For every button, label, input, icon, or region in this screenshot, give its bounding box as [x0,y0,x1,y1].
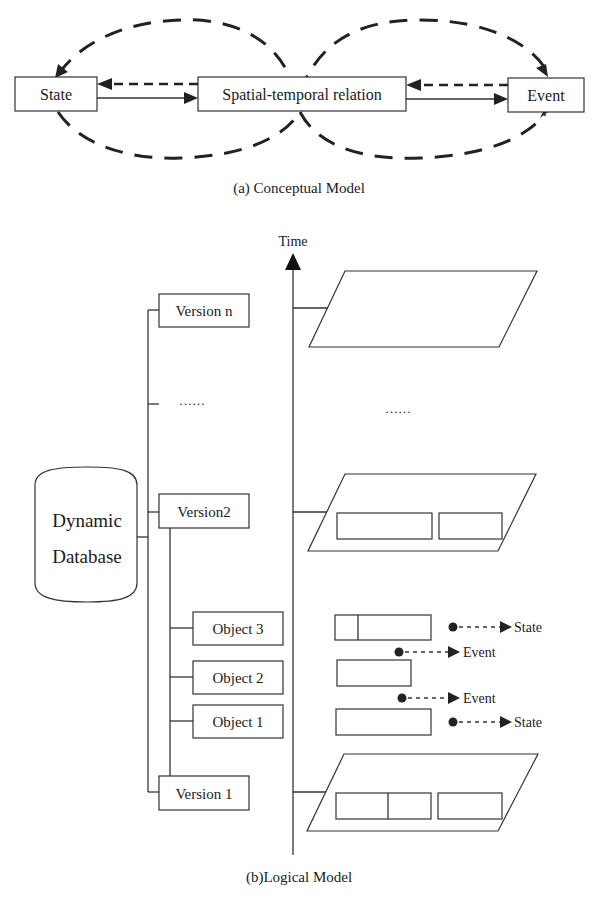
event-node-label: Event [527,87,565,104]
arrow-head-icon [500,621,512,633]
version-2-label: Version2 [177,504,230,520]
object-1-label: Object 1 [212,714,263,730]
dynamic-database [35,467,137,602]
layer-1-object-b [438,793,502,819]
transition-state-1: State [449,620,543,635]
bullet-icon [395,648,404,657]
arrow-head-icon [500,716,512,728]
object-2-label: Object 2 [212,670,263,686]
right-loop-bottom [300,112,545,158]
diagram-canvas: State Spatial-temporal relation Event (a… [0,0,599,911]
state-node-label: State [40,86,72,103]
time-axis-arrow-icon [285,253,301,270]
version-1-label: Version 1 [175,786,232,802]
arrow-head-icon [406,79,421,91]
version-n-label: Version n [175,303,233,319]
caption-conceptual-model: (a) Conceptual Model [233,180,365,197]
transition-state-2: State [449,715,543,730]
transition-label: State [514,620,542,635]
object-3-label: Object 3 [212,621,263,637]
layer-1-object-a [336,793,431,819]
version-ellipsis: …… [179,393,205,408]
right-loop-arrow-icon [536,64,548,77]
object-2-record [337,660,411,686]
bullet-icon [398,694,407,703]
layer-2-object-b [439,513,502,539]
time-axis-label: Time [278,234,307,249]
database-label-line1: Dynamic [52,510,122,531]
caption-logical-model: (b)Logical Model [246,869,352,886]
conceptual-model: State Spatial-temporal relation Event (a… [15,20,584,197]
transition-event-1: Event [395,645,496,660]
left-loop-bottom [58,112,300,158]
database-label-line2: Database [52,546,122,567]
layer-ellipsis: …… [385,401,411,416]
transition-label: Event [463,645,496,660]
arrow-head-icon [448,646,460,658]
logical-model: Time Dynamic Database Version n …… Versi… [35,234,542,886]
transition-label: Event [463,691,496,706]
transition-event-2: Event [398,691,496,706]
layer-2-object-a [337,513,432,539]
arrow-head-icon [97,78,112,90]
layer-version-n [309,271,537,347]
object-1-record [336,709,431,735]
transition-label: State [514,715,542,730]
arrow-head-icon [184,92,198,104]
object-3-record [335,615,431,640]
arrow-head-icon [448,692,460,704]
bullet-icon [449,623,458,632]
bullet-icon [449,718,458,727]
arrow-head-icon [494,93,508,105]
relation-node-label: Spatial-temporal relation [222,86,382,104]
